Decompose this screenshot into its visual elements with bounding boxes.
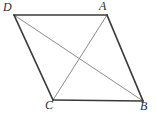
edge-BC-line — [53, 100, 143, 101]
edge-AB-line — [107, 15, 143, 101]
diagonal-AC-line — [53, 15, 107, 100]
vertex-label-A: A — [99, 0, 106, 12]
vertex-label-D: D — [3, 1, 12, 13]
geometry-figure: D A C B — [0, 0, 157, 114]
vertex-label-C: C — [45, 99, 53, 111]
vertex-label-B: B — [140, 100, 147, 112]
parallelogram-svg — [0, 0, 157, 114]
